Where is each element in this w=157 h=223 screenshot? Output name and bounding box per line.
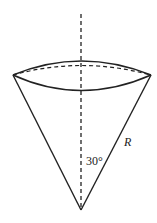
rim-front-arc	[13, 75, 151, 91]
rim-back-dashed-arc	[13, 66, 151, 76]
cone-left-side	[13, 75, 81, 210]
cone-right-side	[81, 75, 151, 210]
cone-diagram: R 30°	[0, 0, 157, 223]
angle-label: 30°	[86, 154, 103, 168]
cap-top-arc	[13, 61, 151, 75]
slant-label: R	[123, 135, 132, 149]
